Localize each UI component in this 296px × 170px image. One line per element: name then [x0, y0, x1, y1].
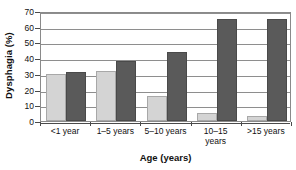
- x-axis-tick-label: 5–10 years: [140, 126, 190, 136]
- y-axis-tick-label: 10: [25, 102, 34, 111]
- x-axis-tick-label: <1 year: [40, 126, 90, 136]
- bar-dark-series-3: [217, 19, 237, 121]
- y-axis-tick-mark: [35, 12, 40, 13]
- bar-light-series-4: [247, 116, 267, 121]
- y-axis-tick-mark: [35, 91, 40, 92]
- y-axis-tick-label: 20: [25, 86, 34, 95]
- y-axis-tick-label: 60: [25, 23, 34, 32]
- bar-chart: Dysphagia (%) 010203040506070 <1 year1–5…: [0, 0, 296, 170]
- gridline: [41, 123, 290, 124]
- y-axis-tick-mark: [35, 75, 40, 76]
- y-axis-tick-labels: 010203040506070: [16, 12, 37, 122]
- y-axis-tick-mark: [35, 59, 40, 60]
- bar-dark-series-0: [66, 72, 86, 121]
- bar-light-series-3: [197, 113, 217, 121]
- y-axis-tick-mark: [35, 43, 40, 44]
- y-axis-tick-label: 70: [25, 8, 34, 17]
- y-axis-title-text: Dysphagia (%): [3, 32, 14, 99]
- bar-light-series-0: [46, 74, 66, 121]
- y-axis-tick-label: 40: [25, 55, 34, 64]
- bar-dark-series-4: [267, 19, 287, 121]
- y-axis-tick-label: 30: [25, 71, 34, 80]
- x-axis-title: Age (years): [40, 152, 291, 163]
- x-axis-tick-label: 10–15 years: [191, 126, 241, 146]
- plot-area: [40, 12, 291, 122]
- y-axis-title: Dysphagia (%): [0, 0, 16, 130]
- x-axis-tick-label: 1–5 years: [90, 126, 140, 136]
- y-axis-tick-mark: [35, 106, 40, 107]
- bars-layer: [41, 13, 290, 121]
- y-axis-tick-label: 0: [29, 118, 34, 127]
- bar-dark-series-2: [167, 52, 187, 121]
- y-axis-tick-mark: [35, 28, 40, 29]
- x-axis-tick-label: >15 years: [241, 126, 291, 136]
- x-axis-tick-labels: <1 year1–5 years5–10 years10–15 years>15…: [40, 126, 291, 152]
- bar-light-series-1: [96, 71, 116, 121]
- bar-light-series-2: [147, 96, 167, 121]
- bar-dark-series-1: [116, 61, 136, 121]
- y-axis-tick-label: 50: [25, 39, 34, 48]
- x-axis-tick-mark: [291, 122, 292, 126]
